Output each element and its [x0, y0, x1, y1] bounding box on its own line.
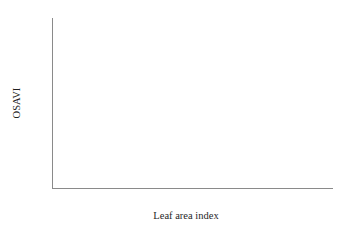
- y-axis-title: OSAVI: [11, 87, 22, 118]
- chart-figure: Leaf area index OSAVI: [0, 0, 342, 228]
- axes-group: [52, 18, 333, 188]
- x-axis-title: Leaf area index: [153, 210, 219, 221]
- plot-area: Leaf area index OSAVI: [0, 0, 342, 228]
